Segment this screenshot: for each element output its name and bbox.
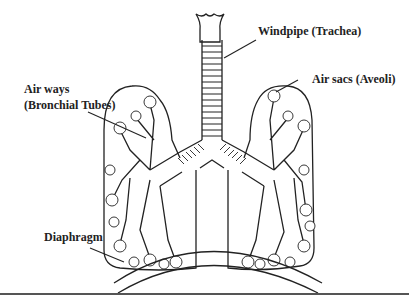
label-airways-line2: (Bronchial Tubes) (24, 98, 115, 113)
leader-lines (88, 40, 298, 262)
alveoli-clusters (105, 90, 315, 269)
bottom-rule (0, 293, 409, 295)
main-bronchi (150, 140, 274, 186)
label-trachea: Windpipe (Trachea) (258, 24, 361, 39)
larynx (196, 14, 224, 42)
label-diaphragm: Diaphragm (44, 230, 103, 245)
label-airsacs: Air sacs (Aveoli) (312, 72, 396, 87)
trachea (202, 40, 222, 140)
lungs-diagram (0, 0, 409, 301)
label-airways-line1: Air ways (24, 82, 69, 97)
